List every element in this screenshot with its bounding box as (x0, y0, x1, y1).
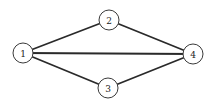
edge-1-4 (23, 53, 193, 54)
edge-1-2 (23, 20, 109, 53)
edge-2-4 (109, 20, 193, 54)
node-label: 3 (105, 84, 111, 94)
edge-3-4 (108, 54, 193, 88)
node-2: 2 (99, 10, 119, 30)
graph-diagram: 1 2 3 4 (0, 0, 213, 104)
node-label: 2 (106, 16, 112, 26)
edge-1-3 (23, 53, 108, 88)
node-3: 3 (98, 78, 118, 98)
node-4: 4 (183, 44, 203, 64)
node-1: 1 (13, 43, 33, 63)
node-label: 1 (20, 49, 26, 59)
node-label: 4 (190, 50, 196, 60)
